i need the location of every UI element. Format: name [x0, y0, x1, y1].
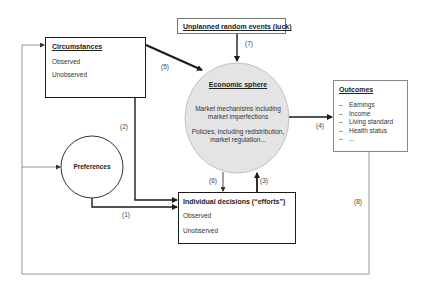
bullet: –	[339, 110, 343, 117]
bullet: –	[339, 127, 343, 134]
outcome-ellipsis: ...	[349, 136, 354, 143]
arrow-5	[146, 45, 202, 70]
edge-label-3: (3)	[260, 178, 268, 185]
decisions-unobserved: Unobserved	[183, 228, 218, 235]
outcome-living-standard: Living standard	[349, 119, 393, 126]
edge-label-7: (7)	[245, 41, 253, 48]
bullet: –	[339, 135, 343, 142]
arrow-2	[135, 97, 177, 200]
luck-title: Unplanned random events (luck)	[183, 23, 292, 30]
outcomes-title: Outcomes	[339, 86, 373, 93]
outcome-income: Income	[349, 111, 370, 118]
economic-sphere-line1b: market imperfections	[187, 114, 289, 121]
edge-label-4: (4)	[316, 123, 324, 130]
edge-label-1: (1)	[122, 212, 130, 219]
economic-sphere-line2a: Policies, including redistribution,	[183, 129, 293, 136]
outcomes-box: Outcomes –Earnings –Income –Living stand…	[333, 80, 408, 152]
edge-label-8: (8)	[354, 199, 362, 206]
outcome-item: –...	[339, 136, 343, 145]
outcome-earnings: Earnings	[349, 102, 375, 109]
luck-box: Unplanned random events (luck)	[177, 18, 286, 34]
preferences-title: Preferences	[62, 164, 122, 171]
decisions-observed: Observed	[183, 213, 211, 220]
economic-sphere-line2b: market regulation...	[187, 137, 289, 144]
decisions-title: Individual decisions (“efforts”)	[183, 198, 285, 205]
decisions-box: Individual decisions (“efforts”) Observe…	[178, 192, 296, 244]
bullet: –	[339, 118, 343, 125]
outcomes-list: –Earnings –Income –Living standard –Heal…	[339, 102, 343, 145]
circumstances-unobserved: Unobserved	[52, 72, 87, 79]
circumstances-box: Circumstances Observed Unobserved	[45, 37, 146, 98]
circumstances-title: Circumstances	[52, 43, 102, 50]
outcome-health-status: Health status	[349, 128, 387, 135]
edge-label-2: (2)	[120, 124, 128, 131]
bullet: –	[339, 101, 343, 108]
circumstances-observed: Observed	[52, 59, 80, 66]
edge-label-5: (5)	[161, 64, 169, 71]
economic-sphere-line1a: Market mechanisms including	[187, 106, 289, 113]
economic-sphere-title: Economic sphere	[197, 81, 279, 88]
edge-label-6: (6)	[209, 178, 217, 185]
